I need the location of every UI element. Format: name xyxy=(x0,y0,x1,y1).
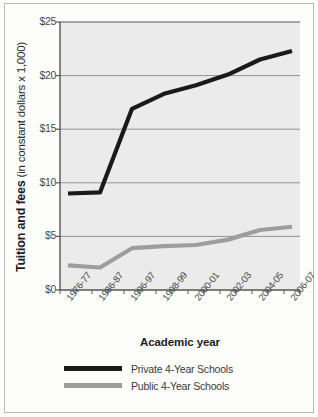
legend-swatch-public xyxy=(64,383,122,388)
legend-label-private: Private 4-Year Schools xyxy=(131,363,233,375)
chart-plot-svg xyxy=(0,0,318,417)
chart-figure: $0 $5 $10 $15 $20 $25 1976-77 1986-87 19… xyxy=(0,0,318,417)
y-axis-title-note: (in constant dollars x 1,000) xyxy=(15,42,27,180)
plot-background xyxy=(60,22,300,290)
legend-item-public: Public 4-Year Schools xyxy=(64,377,304,394)
chart-legend: Private 4-Year Schools Public 4-Year Sch… xyxy=(64,360,304,394)
x-axis-title: Academic year xyxy=(60,336,300,348)
y-axis-title: Tuition and fees (in constant dollars x … xyxy=(11,7,33,307)
legend-swatch-private xyxy=(64,366,122,371)
legend-label-public: Public 4-Year Schools xyxy=(131,380,229,392)
legend-item-private: Private 4-Year Schools xyxy=(64,360,304,377)
y-axis-title-main: Tuition and fees xyxy=(14,180,28,272)
